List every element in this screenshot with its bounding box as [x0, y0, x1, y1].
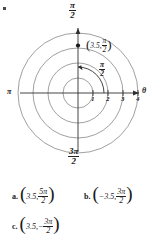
radial-tick-label-1: 1	[91, 95, 95, 103]
answer-choice-a-letter: a.	[12, 192, 18, 201]
axis-label-top: π 2	[69, 2, 76, 21]
polar-coordinate-figure: π 2 3π 2 π θ 1 2 3 4 (3.5, π 2 )	[0, 0, 157, 172]
plotted-point-marker	[76, 43, 80, 47]
worksheet-page: π 2 3π 2 π θ 1 2 3 4 (3.5, π 2 )	[0, 0, 157, 238]
sweep-angle-fraction: π 2	[99, 61, 105, 77]
axis-label-bottom-fraction: 3π 2	[68, 147, 79, 166]
answer-choice-b-angle-denominator: 2	[116, 197, 126, 205]
answer-choice-c-radius: 3.5,	[26, 222, 38, 231]
sweep-angle-label: π 2	[99, 62, 105, 78]
answer-choice-b-angle-fraction: 3π 2	[116, 188, 126, 205]
axis-label-bottom-denominator: 2	[68, 157, 79, 166]
axis-label-right: θ	[142, 86, 146, 95]
point-label-open-paren: (	[86, 37, 90, 52]
axis-label-left: π	[7, 87, 11, 96]
point-label-close-paren: )	[107, 37, 111, 52]
radial-tick-label-4: 4	[136, 95, 140, 103]
answer-choice-c[interactable]: c.(3.5,− 3π 2 )	[12, 212, 60, 236]
point-label-radius: 3.5,	[90, 41, 101, 50]
answer-choice-a-close-paren: )	[48, 183, 54, 204]
radial-tick-label-3: 3	[121, 95, 125, 103]
answer-choice-c-angle-fraction: 3π 2	[43, 218, 53, 235]
answer-choice-list: a.(3.5, 5π 2 ) b.(−3.5, 3π 2 ) c.(3.5,− …	[0, 172, 157, 238]
answer-choice-a-angle-denominator: 2	[38, 197, 48, 205]
answer-choice-c-letter: c.	[12, 222, 18, 231]
answer-choice-a[interactable]: a.(3.5, 5π 2 )	[12, 182, 55, 206]
sweep-angle-denominator: 2	[99, 70, 105, 78]
point-coordinate-label: (3.5, π 2 )	[86, 36, 112, 54]
answer-choice-b-open-paren: (	[92, 183, 98, 204]
answer-choice-b-close-paren: )	[126, 183, 132, 204]
answer-choice-a-radius: 3.5,	[26, 192, 38, 201]
answer-choice-a-open-paren: (	[20, 183, 26, 204]
answer-choice-b-letter: b.	[84, 192, 90, 201]
answer-choice-b-radius: −3.5,	[99, 192, 116, 201]
axis-label-bottom: 3π 2	[68, 148, 79, 167]
radial-tick-label-2: 2	[106, 95, 110, 103]
answer-choice-a-angle-fraction: 5π 2	[38, 188, 48, 205]
axis-label-top-fraction: π 2	[69, 1, 76, 20]
axis-label-top-denominator: 2	[69, 11, 76, 20]
vertical-axis-arrowhead	[76, 28, 81, 34]
answer-choice-c-open-paren: (	[20, 213, 26, 234]
answer-choice-b[interactable]: b.(−3.5, 3π 2 )	[84, 182, 133, 206]
answer-choice-c-angle-denominator: 2	[43, 227, 53, 235]
answer-choice-c-close-paren: )	[53, 213, 59, 234]
